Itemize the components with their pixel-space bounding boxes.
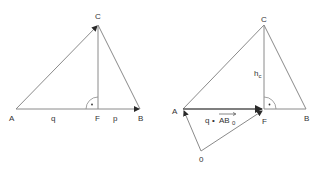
label-A: A [9,114,15,123]
segment-AC [16,26,97,109]
vector-scalar: q [205,116,209,125]
segment-AC [183,25,264,109]
right-angle-arc [264,97,276,109]
vector-OF [201,111,262,151]
geometry-diagram: A C F B q p A C F B 0 hc q • AB 0 [0,0,315,172]
label-O: 0 [199,155,204,164]
vector-label: q • AB 0 [205,113,236,127]
label-C: C [261,15,267,24]
vector-dot: • [212,116,215,125]
label-q: q [51,114,55,123]
label-A: A [172,107,178,116]
height-sub: c [258,73,261,79]
vector-sub: 0 [232,120,236,126]
label-B: B [304,114,309,123]
label-p: p [113,114,118,123]
segment-CB [98,25,140,109]
label-F: F [262,117,267,126]
left-triangle-figure: A C F B q p [9,12,143,123]
segment-CB [264,25,306,109]
label-B: B [138,114,143,123]
vector-name: AB [219,116,230,125]
right-triangle-figure: A C F B 0 hc q • AB 0 [172,15,309,164]
label-F: F [95,114,100,123]
right-angle-dot [269,104,271,106]
right-angle-dot [91,104,93,106]
right-angle-arc [86,97,98,109]
label-C: C [95,12,101,21]
label-height: hc [254,69,261,79]
vector-OA [184,111,201,151]
